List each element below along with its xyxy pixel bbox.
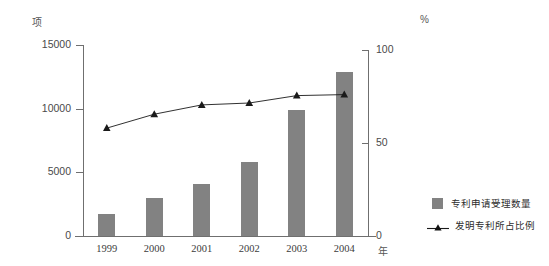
x-axis-line xyxy=(75,236,376,237)
trend-marker-2000 xyxy=(150,110,158,117)
left-tick-mark xyxy=(76,109,83,110)
trend-marker-1999 xyxy=(103,124,111,131)
right-tick-mark xyxy=(362,50,369,51)
legend-label-bar: 专利申请受理数量 xyxy=(451,196,531,210)
bar-1999 xyxy=(98,214,115,236)
bar-2001 xyxy=(193,184,210,236)
right-tick-mark xyxy=(362,236,369,237)
left-tick-label: 10000 xyxy=(19,102,71,114)
x-label-2000: 2000 xyxy=(131,243,177,254)
left-tick-mark xyxy=(76,172,83,173)
left-tick-label: 15000 xyxy=(19,38,71,50)
left-tick-label: 5000 xyxy=(19,165,71,177)
trend-line xyxy=(107,95,344,129)
right-axis-unit-label: % xyxy=(420,14,429,25)
right-tick-label: 100 xyxy=(376,43,416,55)
chart-legend: 专利申请受理数量 发明专利所占比例 xyxy=(432,194,544,238)
left-tick-mark xyxy=(76,45,83,46)
bar-2004 xyxy=(336,72,353,236)
x-axis-unit-label: 年 xyxy=(378,243,388,258)
bar-2003 xyxy=(288,110,305,236)
trend-marker-2003 xyxy=(293,92,301,99)
left-axis-line xyxy=(83,45,84,236)
x-label-1999: 1999 xyxy=(84,243,130,254)
triangle-line-marker-icon xyxy=(427,220,449,231)
trend-marker-2001 xyxy=(198,101,206,108)
right-tick-label: 0 xyxy=(376,229,416,241)
patent-statistics-chart: 项 % 050001000015000 050100 1999200020012… xyxy=(0,0,549,266)
bar-2000 xyxy=(146,198,163,236)
x-label-2004: 2004 xyxy=(321,243,367,254)
bar-2002 xyxy=(241,162,258,236)
legend-label-line: 发明专利所占比例 xyxy=(455,218,535,232)
x-label-2003: 2003 xyxy=(274,243,320,254)
x-label-2001: 2001 xyxy=(179,243,225,254)
x-label-2002: 2002 xyxy=(226,243,272,254)
legend-item-bar: 专利申请受理数量 xyxy=(432,194,544,212)
right-tick-mark xyxy=(362,143,369,144)
trend-markers xyxy=(103,91,348,132)
right-tick-label: 50 xyxy=(376,136,416,148)
left-axis-unit-label: 项 xyxy=(32,14,42,29)
left-tick-label: 0 xyxy=(19,229,71,241)
left-tick-mark xyxy=(76,236,83,237)
bar-swatch-icon xyxy=(432,198,443,209)
trend-marker-2002 xyxy=(245,99,253,106)
legend-item-line: 发明专利所占比例 xyxy=(432,216,544,234)
